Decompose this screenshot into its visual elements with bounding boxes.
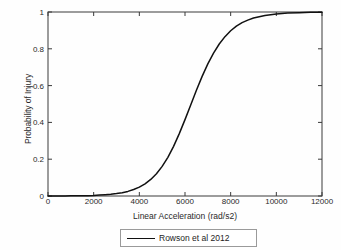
y-tick-label: 0.8 xyxy=(33,44,44,53)
x-tick-label: 6000 xyxy=(176,197,194,206)
x-tick-label: 2000 xyxy=(85,197,103,206)
legend-label: Rowson et al 2012 xyxy=(159,233,229,243)
x-tick-marks xyxy=(48,12,322,196)
x-tick-label: 4000 xyxy=(130,197,148,206)
y-axis-label: Probability of Injury xyxy=(23,29,33,189)
legend-line-swatch xyxy=(127,238,155,239)
y-tick-label: 0.4 xyxy=(33,118,44,127)
axes-frame xyxy=(48,12,322,196)
x-tick-label: 0 xyxy=(46,197,50,206)
x-tick-label: 12000 xyxy=(311,197,333,206)
figure-canvas: Probability of Injury Linear Acceleratio… xyxy=(0,0,341,250)
x-tick-label: 10000 xyxy=(265,197,287,206)
y-tick-marks xyxy=(48,12,322,196)
y-tick-label: 0.6 xyxy=(33,81,44,90)
x-axis-label: Linear Acceleration (rad/s2) xyxy=(48,211,322,221)
x-tick-label: 8000 xyxy=(222,197,240,206)
y-tick-label: 0 xyxy=(40,192,44,201)
series-line-rowson-et-al-2012 xyxy=(48,12,322,196)
y-tick-label: 0.2 xyxy=(33,155,44,164)
chart-legend: Rowson et al 2012 xyxy=(120,229,257,247)
y-tick-label: 1 xyxy=(40,8,44,17)
